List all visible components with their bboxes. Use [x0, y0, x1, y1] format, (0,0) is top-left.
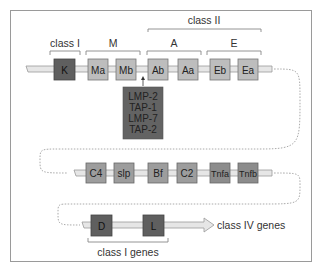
gene-Ea: Ea	[238, 59, 258, 80]
svg-text:Ab: Ab	[152, 65, 165, 76]
insert-arrow-icon	[141, 76, 145, 86]
svg-text:C2: C2	[181, 168, 194, 179]
svg-text:L: L	[151, 221, 157, 232]
gene-slp: slp	[114, 163, 134, 183]
gene-Ma: Ma	[88, 59, 108, 80]
gene-C2: C2	[177, 163, 197, 183]
svg-text:Bf: Bf	[153, 168, 163, 179]
dotted-connector-1	[40, 69, 300, 173]
gene-C4: C4	[86, 163, 106, 183]
svg-text:Tnfb: Tnfb	[239, 169, 257, 179]
svg-text:Eb: Eb	[214, 65, 227, 76]
gene-Tnfb: Tnfb	[238, 163, 258, 183]
svg-text:D: D	[98, 221, 105, 232]
label-A: A	[170, 37, 177, 49]
svg-text:Ma: Ma	[91, 65, 105, 76]
label-E: E	[230, 37, 237, 49]
gene-Eb: Eb	[210, 59, 230, 80]
gene-L: L	[143, 215, 164, 236]
svg-text:K: K	[61, 65, 68, 76]
svg-text:TAP-2: TAP-2	[129, 124, 157, 135]
label-class-IV-genes: class IV genes	[217, 219, 285, 231]
svg-text:LMP-2: LMP-2	[128, 91, 158, 102]
label-M: M	[109, 37, 118, 49]
svg-text:Tnfa: Tnfa	[211, 169, 229, 179]
svg-text:TAP-1: TAP-1	[129, 102, 157, 113]
insert-box-lmp-tap: LMP-2 TAP-1 LMP-7 TAP-2	[123, 87, 163, 139]
label-class-I-genes: class I genes	[97, 246, 158, 258]
svg-text:LMP-7: LMP-7	[128, 113, 158, 124]
svg-text:Aa: Aa	[182, 65, 195, 76]
gene-Tnfa: Tnfa	[210, 163, 230, 183]
label-class-I: class I	[50, 37, 80, 49]
svg-text:C4: C4	[90, 168, 103, 179]
svg-text:Ea: Ea	[242, 65, 255, 76]
gene-Bf: Bf	[148, 163, 168, 183]
gene-Mb: Mb	[116, 59, 136, 80]
svg-text:Mb: Mb	[119, 65, 133, 76]
gene-K: K	[54, 59, 75, 80]
label-class-II: class II	[188, 14, 221, 26]
gene-D: D	[91, 215, 112, 236]
mhc-gene-map: class I M A E class II class I genes cla…	[0, 0, 324, 277]
gene-Aa: Aa	[178, 59, 198, 80]
gene-Ab: Ab	[148, 59, 168, 80]
svg-text:slp: slp	[118, 168, 131, 179]
